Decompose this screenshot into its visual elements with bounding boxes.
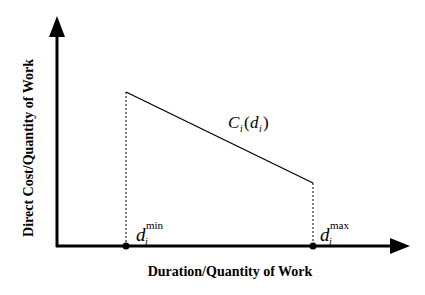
cost-duration-diagram: Direct Cost/Quantity of Work Duration/Qu… [0,0,425,295]
svg-text:C: C [228,113,240,132]
x-axis-label: Duration/Quantity of Work [148,264,313,279]
svg-text:i: i [145,236,148,247]
svg-text:max: max [330,219,349,231]
y-axis-arrowhead-icon [49,16,65,37]
svg-text:i: i [240,123,243,134]
dmax-point [310,243,317,250]
cost-line [126,92,313,183]
y-axis-label: Direct Cost/Quantity of Work [21,59,36,237]
svg-text:i: i [329,236,332,247]
curve-label: C i ( d i ) [228,113,269,134]
svg-text:): ) [263,113,269,132]
x-axis-arrowhead-icon [390,238,410,254]
svg-text:min: min [146,219,164,231]
dmin-label: d i min [136,219,164,247]
diagram-canvas: Direct Cost/Quantity of Work Duration/Qu… [0,0,425,295]
dmin-point [123,243,130,250]
dmax-label: d i max [320,219,349,247]
svg-text:d: d [250,113,259,132]
svg-text:i: i [259,123,262,134]
